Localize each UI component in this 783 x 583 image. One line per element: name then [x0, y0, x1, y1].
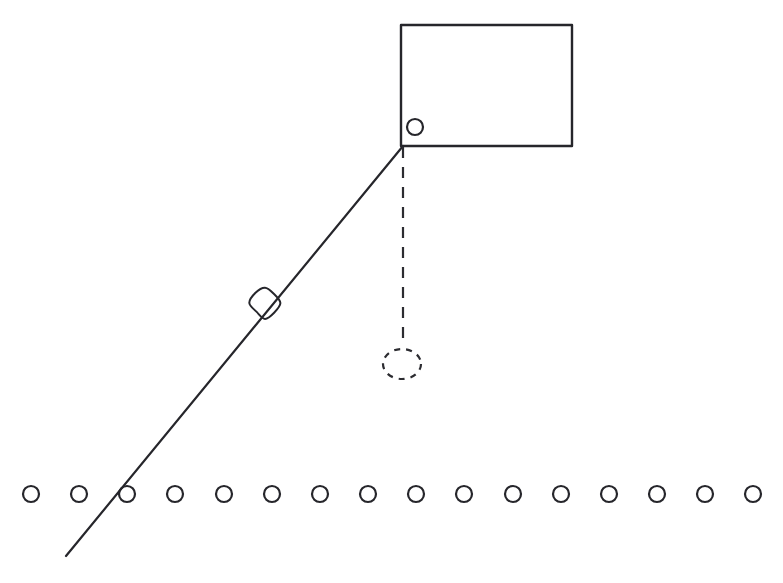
roller-circle-3 [119, 486, 135, 502]
roller-circle-1 [23, 486, 39, 502]
corner-wheel: Small circle at block lower-left corner [407, 119, 423, 135]
corner-wheel-icon: Small circle at block lower-left corner [407, 119, 423, 135]
roller-circle-16 [745, 486, 761, 502]
roller-circle-2 [71, 486, 87, 502]
roller-circle-14 [649, 486, 665, 502]
incline-line: Diagonal incline line [66, 146, 403, 556]
dashed-target-ellipse: Dashed circle at end of drop line [383, 349, 421, 379]
roller-circle-7 [312, 486, 328, 502]
roller-circle-9 [408, 486, 424, 502]
roller-circle-11 [505, 486, 521, 502]
roller-circle-5 [216, 486, 232, 502]
block-rectangle: Rectangular block [401, 25, 572, 146]
roller-circle-6 [264, 486, 280, 502]
diagram-svg: Diagonal incline line Rectangular block … [0, 0, 783, 583]
roller-circle-8 [360, 486, 376, 502]
block-rectangle: Rectangular block [401, 25, 572, 146]
figure-canvas: Inclined line diagram with block, roller… [0, 0, 783, 583]
roller-circle-13 [601, 486, 617, 502]
roller-circle-15 [697, 486, 713, 502]
roller-circle-12 [553, 486, 569, 502]
dashed-target-ellipse: Dashed circle at end of drop line [383, 349, 421, 379]
roller-circle-10 [456, 486, 472, 502]
roller-circle-4 [167, 486, 183, 502]
roller-row [23, 486, 761, 502]
incline-line: Diagonal incline line [66, 146, 403, 556]
